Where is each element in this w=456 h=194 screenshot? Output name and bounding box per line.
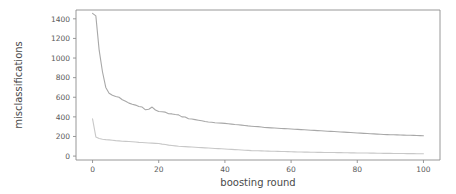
- x-tick-label: 100: [416, 165, 431, 174]
- x-tick-label: 80: [352, 165, 362, 174]
- y-axis-label: misclassifications: [13, 41, 24, 129]
- y-tick-label: 1200: [51, 34, 70, 43]
- y-axis-ticks: 0200400600800100012001400: [51, 15, 76, 161]
- x-tick-label: 40: [220, 165, 230, 174]
- y-tick-label: 400: [56, 113, 71, 122]
- y-tick-label: 600: [56, 93, 71, 102]
- y-tick-label: 1000: [51, 54, 70, 63]
- misclassifications-line-chart: 020406080100 0200400600800100012001400 b…: [0, 0, 456, 194]
- y-tick-label: 800: [56, 73, 71, 82]
- x-tick-label: 0: [90, 165, 95, 174]
- plot-background: [76, 10, 440, 160]
- x-tick-label: 20: [154, 165, 164, 174]
- y-tick-label: 200: [56, 132, 71, 141]
- chart-figure: 020406080100 0200400600800100012001400 b…: [0, 0, 456, 194]
- y-tick-label: 1400: [51, 15, 70, 24]
- x-axis-ticks: 020406080100: [90, 160, 431, 174]
- y-tick-label: 0: [65, 152, 70, 161]
- x-axis-label: boosting round: [220, 177, 295, 188]
- x-tick-label: 60: [286, 165, 296, 174]
